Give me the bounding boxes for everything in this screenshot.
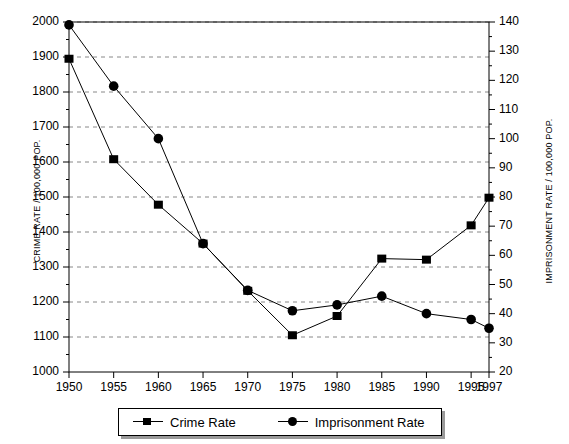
y-axis-left-tick-label: 1900	[17, 49, 59, 63]
legend-label-imprisonment-rate: Imprisonment Rate	[315, 415, 425, 430]
y-axis-right-tick-label: 130	[499, 43, 541, 57]
y-axis-right-tick-label: 40	[499, 306, 541, 320]
data-point	[422, 256, 431, 264]
y-axis-left-tick-label: 1800	[17, 84, 59, 98]
y-axis-left-tick-label: 1000	[17, 364, 59, 378]
y-axis-right-tick-label: 110	[499, 102, 541, 116]
data-point	[422, 309, 432, 319]
legend-label-crime-rate: Crime Rate	[170, 415, 236, 430]
data-point	[154, 201, 163, 209]
data-point	[484, 323, 494, 333]
y-axis-right-tick-label: 50	[499, 277, 541, 291]
y-axis-left-tick-label: 1700	[17, 119, 59, 133]
y-axis-right-tick-label: 100	[499, 131, 541, 145]
y-axis-right-tick-label: 90	[499, 160, 541, 174]
data-point	[288, 306, 298, 316]
y-axis-right-tick-label: 80	[499, 189, 541, 203]
circle-marker-icon	[278, 416, 308, 428]
y-axis-left-tick-label: 1100	[17, 329, 59, 343]
data-point	[109, 81, 119, 91]
crime-imprisonment-chart: CRIME RATE / 100,000 POP. IMPRISONMENT R…	[0, 0, 569, 444]
data-point	[65, 55, 74, 63]
y-axis-right-tick-label: 70	[499, 218, 541, 232]
data-point	[333, 312, 342, 320]
data-point	[288, 331, 297, 339]
data-point	[198, 239, 208, 249]
data-point	[154, 134, 164, 144]
legend: Crime Rate Imprisonment Rate	[118, 408, 442, 436]
y-axis-left-tick-label: 1600	[17, 154, 59, 168]
y-axis-left-tick-label: 1500	[17, 189, 59, 203]
y-axis-right-title: IMPRISONMENT RATE / 100,000 POP.	[544, 86, 554, 316]
y-axis-left-tick-label: 1300	[17, 259, 59, 273]
y-axis-right-tick-label: 30	[499, 335, 541, 349]
y-axis-right-tick-label: 20	[499, 364, 541, 378]
plot-area	[0, 0, 569, 444]
y-axis-right-tick-label: 140	[499, 14, 541, 28]
legend-item-imprisonment-rate[interactable]: Imprisonment Rate	[278, 415, 425, 430]
data-point	[485, 194, 494, 202]
data-point	[64, 20, 74, 30]
data-point	[109, 155, 118, 163]
y-axis-right-tick-label: 120	[499, 72, 541, 86]
data-point	[467, 221, 476, 229]
y-axis-left-tick-label: 1400	[17, 224, 59, 238]
data-point	[243, 286, 253, 296]
data-point	[377, 255, 386, 263]
x-axis-tick-label: 1997	[459, 380, 519, 394]
y-axis-left-tick-label: 2000	[17, 14, 59, 28]
y-axis-left-tick-label: 1200	[17, 294, 59, 308]
data-point	[377, 291, 387, 301]
legend-item-crime-rate[interactable]: Crime Rate	[133, 415, 236, 430]
data-point	[466, 315, 476, 325]
square-marker-icon	[133, 416, 163, 428]
data-point	[332, 300, 342, 310]
y-axis-right-tick-label: 60	[499, 247, 541, 261]
